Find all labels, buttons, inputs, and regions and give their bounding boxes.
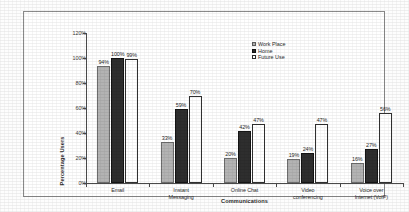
legend-swatch-icon xyxy=(252,55,256,59)
y-axis-title: Percentage Users xyxy=(59,131,65,191)
legend-label: Work Place xyxy=(258,41,285,48)
bar-value-label: 33% xyxy=(162,135,173,141)
bar-value-label: 100% xyxy=(111,51,124,57)
bar-value-label: 99% xyxy=(126,52,137,58)
legend-label: Future Use xyxy=(258,54,285,61)
bar-group: 19%24%47% xyxy=(276,33,339,183)
bar: 42% xyxy=(238,131,251,184)
chart-frame: 0%20%40%60%80%100%120% Percentage Users … xyxy=(23,11,385,197)
bar-value-label: 94% xyxy=(98,59,109,65)
bar-value-label: 19% xyxy=(289,152,300,158)
bar-value-label: 56% xyxy=(380,106,391,112)
bar: 94% xyxy=(97,66,110,184)
bar-value-label: 47% xyxy=(317,117,328,123)
bar-value-label: 47% xyxy=(253,117,264,123)
x-category-label-line: Video xyxy=(276,187,339,194)
x-category-label-line: Online Chat xyxy=(213,187,276,194)
bar: 70% xyxy=(189,96,202,184)
bar: 59% xyxy=(175,109,188,183)
x-category-label: Online Chat xyxy=(213,187,276,194)
bar-value-label: 59% xyxy=(176,102,187,108)
x-category-label-line: Instant xyxy=(149,187,212,194)
x-category-label: Email xyxy=(86,187,149,194)
bar-value-label: 16% xyxy=(352,156,363,162)
bar-value-label: 70% xyxy=(190,89,201,95)
bar-value-label: 24% xyxy=(303,146,314,152)
scanned-figure: 0%20%40%60%80%100%120% Percentage Users … xyxy=(0,0,409,212)
bar-group-inner: 94%100%99% xyxy=(86,33,149,183)
bar-group-inner: 19%24%47% xyxy=(276,33,339,183)
legend-swatch-icon xyxy=(252,42,256,46)
x-axis-title: Communications xyxy=(86,198,403,204)
bar-group-inner: 16%27%56% xyxy=(340,33,403,183)
bar-groups: 94%100%99%33%59%70%20%42%47%19%24%47%16%… xyxy=(86,33,403,183)
x-axis-line xyxy=(86,183,403,184)
bar: 20% xyxy=(224,158,237,183)
bar: 16% xyxy=(351,163,364,183)
bar: 99% xyxy=(125,59,138,183)
legend-item: Work Place xyxy=(252,41,285,48)
bar-group: 94%100%99% xyxy=(86,33,149,183)
bar: 19% xyxy=(287,159,300,183)
chart-legend: Work PlaceHomeFuture Use xyxy=(252,41,285,61)
bar-group: 33%59%70% xyxy=(149,33,212,183)
bar-value-label: 42% xyxy=(239,124,250,130)
bar-group: 16%27%56% xyxy=(340,33,403,183)
bar: 27% xyxy=(365,149,378,183)
legend-item: Home xyxy=(252,48,285,55)
x-category-label-line: Email xyxy=(86,187,149,194)
bar: 56% xyxy=(379,113,392,183)
bar: 24% xyxy=(301,153,314,183)
bar-value-label: 27% xyxy=(366,142,377,148)
bar-value-label: 20% xyxy=(225,151,236,157)
bar: 100% xyxy=(111,58,124,183)
x-tick-mark xyxy=(403,183,404,187)
y-axis-title-wrap: Percentage Users xyxy=(48,72,62,132)
legend-label: Home xyxy=(258,48,272,55)
bar: 33% xyxy=(161,142,174,183)
bar: 47% xyxy=(315,124,328,183)
bar: 47% xyxy=(252,124,265,183)
legend-item: Future Use xyxy=(252,54,285,61)
bar-group-inner: 33%59%70% xyxy=(149,33,212,183)
legend-swatch-icon xyxy=(252,49,256,53)
x-category-label-line: Voice over xyxy=(340,187,403,194)
